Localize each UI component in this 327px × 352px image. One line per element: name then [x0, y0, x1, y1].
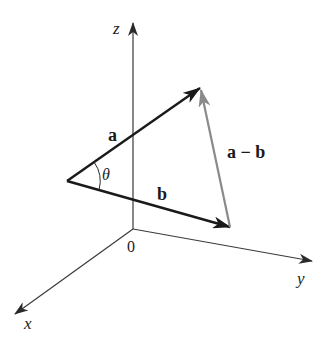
labels: z y x 0 a b a − b θ: [23, 19, 305, 333]
vector-difference-diagram: z y x 0 a b a − b θ: [0, 0, 327, 352]
x-axis-label: x: [23, 314, 32, 333]
vector-a-minus-b: [201, 90, 230, 227]
axes: [15, 23, 312, 314]
vector-a-label: a: [108, 125, 117, 145]
x-axis: [15, 229, 133, 314]
vector-a-minus-b-label: a − b: [227, 142, 265, 162]
vector-b-label: b: [157, 184, 167, 204]
vectors: [67, 88, 230, 227]
y-axis-label: y: [295, 269, 305, 288]
origin-label: 0: [127, 238, 135, 255]
z-axis-label: z: [112, 19, 120, 38]
theta-arc-icon: [94, 162, 100, 190]
y-axis: [133, 229, 312, 261]
theta-label: θ: [102, 166, 110, 183]
vector-b: [67, 181, 230, 227]
